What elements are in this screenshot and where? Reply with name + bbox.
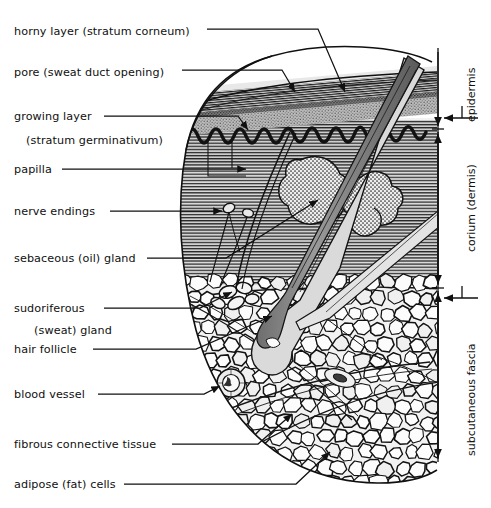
label-fibrous-connective-tissue: fibrous connective tissue [14, 439, 156, 450]
label-sudoriferous: sudoriferous [14, 303, 85, 314]
label-sebaceous-gland: sebaceous (oil) gland [14, 253, 136, 264]
skin-cross-section-figure: horny layer (stratum corneum) pore (swea… [0, 0, 491, 508]
label-epidermis: epidermis [466, 68, 477, 122]
blood-vessel [217, 369, 245, 397]
label-blood-vessel: blood vessel [14, 389, 85, 400]
label-corium-dermis: corium (dermis) [466, 164, 477, 252]
label-subcutaneous-fascia: subcutaneous fascia [466, 343, 477, 456]
label-adipose-cells: adipose (fat) cells [14, 479, 116, 490]
label-horny-layer: horny layer (stratum corneum) [14, 26, 190, 37]
label-pore: pore (sweat duct opening) [14, 67, 164, 78]
skin-block [149, 56, 476, 494]
label-hair-follicle: hair follicle [14, 344, 77, 355]
label-growing-layer: growing layer [14, 111, 92, 122]
label-stratum-germinativum: (stratum germinativum) [26, 135, 163, 146]
leader-blood-vessel [98, 386, 220, 394]
label-papilla: papilla [14, 164, 52, 175]
label-sweat-gland: (sweat) gland [34, 325, 112, 336]
label-nerve-endings: nerve endings [14, 206, 95, 217]
